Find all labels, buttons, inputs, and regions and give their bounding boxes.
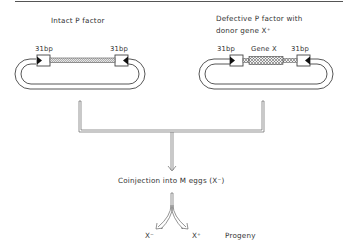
progeny-label: Progeny	[225, 232, 256, 239]
split-arrows	[156, 193, 188, 229]
coinjection-step-label: Coinjection into M eggs (X⁻)	[118, 177, 224, 184]
intact-p-factor-title: Intact P factor	[51, 17, 105, 24]
defective-right-31bp-label: 31bp	[291, 46, 309, 53]
defective-p-factor-plasmid	[199, 55, 333, 89]
defective-p-factor-title: Defective P factor with	[216, 15, 302, 22]
gene-x-label: Gene X	[251, 46, 277, 53]
defective-left-31bp-label: 31bp	[217, 46, 235, 53]
right-31bp-label: 31bp	[110, 46, 128, 53]
donor-gene-title: donor gene X⁺	[216, 27, 271, 34]
diagram-canvas	[0, 0, 343, 247]
outcome-x-plus: X⁺	[192, 232, 201, 239]
left-31bp-label: 31bp	[35, 46, 53, 53]
intact-p-factor-plasmid	[15, 55, 145, 89]
merge-connector	[79, 101, 264, 171]
outcome-x-minus: X⁻	[145, 232, 154, 239]
